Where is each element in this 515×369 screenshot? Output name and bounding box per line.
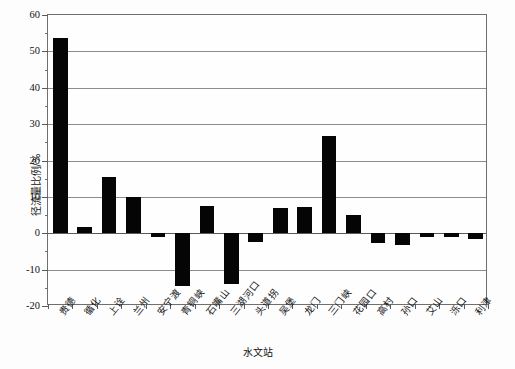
- bar: [224, 233, 239, 284]
- y-tick-label: 60: [30, 10, 41, 21]
- bar: [248, 233, 263, 241]
- bar: [346, 215, 361, 233]
- bar: [395, 233, 410, 245]
- bar: [468, 233, 483, 238]
- bar: [322, 136, 337, 233]
- plot-area: 6050403020100-10-20 贵德循化上诠兰州安宁渡青铜峡石嘴山三湖河…: [47, 14, 487, 305]
- bar: [53, 38, 68, 234]
- bar: [200, 206, 215, 233]
- y-tick-label: 30: [30, 119, 41, 130]
- y-tick-label: 50: [30, 46, 41, 57]
- bar: [126, 197, 141, 233]
- chart-figure: 径流量比例/% 6050403020100-10-20 贵德循化上诠兰州安宁渡青…: [0, 0, 515, 369]
- y-tick-label: 0: [35, 228, 40, 239]
- bar: [297, 207, 312, 233]
- bar: [102, 177, 117, 233]
- bar: [151, 233, 166, 237]
- y-tick-label: 20: [30, 155, 41, 166]
- x-tick: [48, 304, 49, 309]
- x-axis-title: 水文站: [0, 344, 515, 359]
- bar: [420, 233, 435, 236]
- bar: [371, 233, 386, 242]
- bar: [175, 233, 190, 286]
- bar: [77, 227, 92, 234]
- y-tick-label: -10: [26, 264, 40, 275]
- y-tick-label: 10: [30, 192, 41, 203]
- y-tick-label: 40: [30, 83, 41, 94]
- bar: [273, 208, 288, 233]
- bar-series: [48, 15, 486, 304]
- bar: [444, 233, 459, 237]
- y-tick-label: -20: [26, 301, 40, 312]
